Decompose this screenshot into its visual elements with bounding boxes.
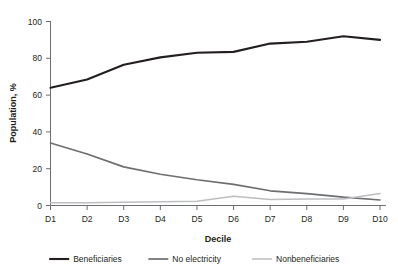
x-tick-label-d8: D8 [301, 214, 312, 224]
chart-legend: BeneficiariesNo electricityNonbeneficiar… [49, 254, 339, 264]
x-tick-label-d1: D1 [45, 214, 56, 224]
x-tick-label-d3: D3 [118, 214, 129, 224]
x-tick-label-d2: D2 [82, 214, 93, 224]
y-tick-label-0: 0 [37, 201, 42, 211]
y-tick-label-40: 40 [33, 127, 43, 137]
y-tick-label-60: 60 [33, 90, 43, 100]
x-tick-label-d9: D9 [338, 214, 349, 224]
legend-label-nonbeneficiaries: Nonbeneficiaries [276, 254, 339, 264]
y-tick-label-100: 100 [28, 17, 42, 27]
y-tick-label-80: 80 [33, 53, 43, 63]
legend-label-beneficiaries: Beneficiaries [73, 254, 122, 264]
legend-label-no-electricity: No electricity [172, 254, 221, 264]
line-chart: 100 80 60 40 20 0 D1D2D3D4D5D6D7D8D9D10 … [0, 0, 398, 273]
x-tick-label-d5: D5 [192, 214, 203, 224]
x-axis-title: Decile [205, 234, 232, 244]
chart-figure: 100 80 60 40 20 0 D1D2D3D4D5D6D7D8D9D10 … [0, 0, 398, 273]
x-tick-label-d6: D6 [228, 214, 239, 224]
x-tick-label-d10: D10 [372, 214, 388, 224]
x-tick-label-d7: D7 [265, 214, 276, 224]
y-tick-label-20: 20 [33, 164, 43, 174]
x-tick-label-d4: D4 [155, 214, 166, 224]
y-axis-title: Population, % [8, 83, 18, 143]
chart-background [0, 0, 398, 273]
